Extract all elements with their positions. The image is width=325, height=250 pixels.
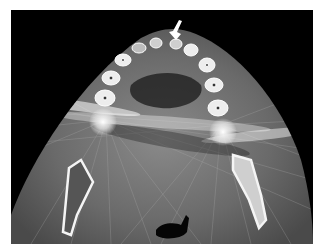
metal-artifact-right	[209, 118, 237, 146]
ct-image	[11, 10, 313, 244]
ct-scan-graphic	[11, 10, 313, 244]
metal-artifact-left	[89, 108, 117, 136]
